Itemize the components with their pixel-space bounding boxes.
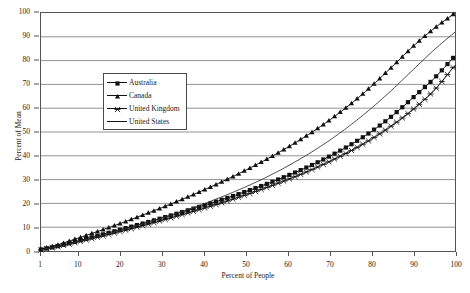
x-tick-mark xyxy=(288,252,289,256)
x-tick-label: 80 xyxy=(357,261,387,269)
x-tick-mark xyxy=(372,252,373,256)
y-tick-mark xyxy=(34,204,39,205)
x-tick-mark xyxy=(204,252,205,256)
series-canada xyxy=(38,12,455,251)
x-tick-mark xyxy=(414,252,415,256)
legend-item-label: Canada xyxy=(127,91,152,100)
y-tick-mark xyxy=(34,228,39,229)
x-tick-label: 100 xyxy=(441,261,470,269)
x-tick-label: 60 xyxy=(273,261,303,269)
line-only-marker xyxy=(107,116,127,127)
x-tick-mark xyxy=(120,252,121,256)
x-tick-label: 20 xyxy=(105,261,135,269)
legend-item-label: Australia xyxy=(127,78,157,87)
x-tick-mark xyxy=(330,252,331,256)
legend-item-australia[interactable]: Australia xyxy=(107,76,186,89)
y-tick-mark xyxy=(34,60,39,61)
y-tick-mark xyxy=(34,84,39,85)
y-tick-label: 100 xyxy=(0,8,30,16)
chart-legend[interactable]: AustraliaCanadaUnited KingdomUnited Stat… xyxy=(103,73,187,130)
lorenz-curve-chart: 0102030405060708090100 Percent of Mean A… xyxy=(0,0,470,293)
y-axis-title: Percent of Mean xyxy=(15,81,23,191)
legend-item-label: United States xyxy=(127,117,169,126)
y-tick-mark xyxy=(34,180,39,181)
series-australia xyxy=(39,56,455,252)
series-united-states xyxy=(41,32,455,250)
y-tick-mark xyxy=(34,12,39,13)
y-tick-label: 10 xyxy=(0,224,30,232)
x-tick-mark xyxy=(162,252,163,256)
x-tick-label: 10 xyxy=(63,261,93,269)
series-united-kingdom xyxy=(38,65,456,252)
x-tick-label: 70 xyxy=(315,261,345,269)
x-tick-label: 50 xyxy=(231,261,261,269)
x-tick-mark xyxy=(246,252,247,256)
x-axis-title: Percent of People xyxy=(40,272,456,280)
legend-item-united-states[interactable]: United States xyxy=(107,115,186,128)
square-marker xyxy=(107,77,127,88)
x-tick-label: 30 xyxy=(147,261,177,269)
data-series-layer xyxy=(41,13,455,251)
x-tick-mark xyxy=(78,252,79,256)
x-tick-label: 1 xyxy=(25,261,55,269)
y-tick-mark xyxy=(34,108,39,109)
y-tick-label: 90 xyxy=(0,32,30,40)
triangle-marker xyxy=(107,90,127,101)
y-tick-label: 80 xyxy=(0,56,30,64)
y-tick-mark xyxy=(34,156,39,157)
plot-area: AustraliaCanadaUnited KingdomUnited Stat… xyxy=(40,12,456,252)
star-marker xyxy=(107,103,127,114)
y-tick-mark xyxy=(34,132,39,133)
x-tick-mark xyxy=(456,252,457,256)
legend-item-label: United Kingdom xyxy=(127,104,180,113)
legend-item-canada[interactable]: Canada xyxy=(107,89,186,102)
y-tick-mark xyxy=(34,36,39,37)
x-tick-label: 90 xyxy=(399,261,429,269)
y-tick-label: 20 xyxy=(0,200,30,208)
x-tick-mark xyxy=(40,252,41,256)
x-tick-label: 40 xyxy=(189,261,219,269)
legend-item-united-kingdom[interactable]: United Kingdom xyxy=(107,102,186,115)
